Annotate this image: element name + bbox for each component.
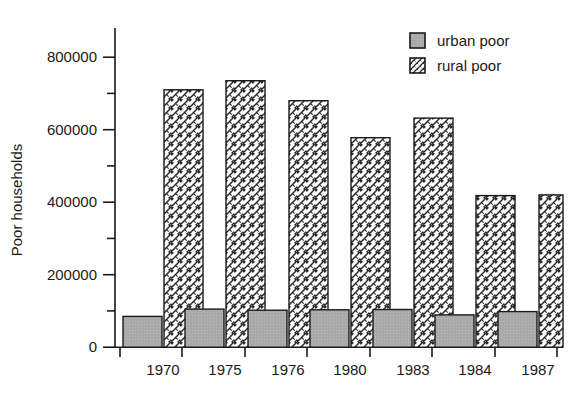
legend-label-rural-poor: rural poor (437, 57, 501, 74)
x-tick-label-1987: 1987 (521, 361, 554, 378)
y-tick-label-400000: 400000 (47, 193, 97, 210)
y-tick-label-0: 0 (89, 338, 97, 355)
bar-urban-1984 (435, 315, 474, 347)
bar-urban-1980 (310, 310, 349, 347)
y-axis-title: Poor households (8, 144, 25, 257)
legend-swatch-rural-poor (410, 58, 425, 73)
bar-urban-1983 (373, 310, 412, 348)
y-tick-label-600000: 600000 (47, 121, 97, 138)
x-tick-label-1984: 1984 (458, 361, 491, 378)
bar-rural-1975 (226, 81, 265, 348)
legend-swatch-urban-poor (410, 33, 425, 48)
x-tick-label-1970: 1970 (146, 361, 179, 378)
chart-canvas: Poor households 0 200000 400000 600000 8… (0, 0, 576, 393)
legend-item-urban-poor[interactable]: urban poor (410, 32, 510, 49)
bar-rural-1987 (539, 195, 563, 347)
bar-urban-1975 (185, 309, 224, 347)
bar-rural-1983 (414, 118, 453, 347)
legend-item-rural-poor[interactable]: rural poor (410, 57, 501, 74)
x-tick-label-1976: 1976 (271, 361, 304, 378)
y-tick-label-800000: 800000 (47, 48, 97, 65)
bar-urban-1976 (248, 310, 287, 347)
bar-urban-1970 (123, 316, 162, 347)
x-tick-label-1983: 1983 (396, 361, 429, 378)
legend-label-urban-poor: urban poor (437, 32, 510, 49)
y-tick-label-200000: 200000 (47, 266, 97, 283)
bar-urban-1987 (498, 312, 537, 348)
x-tick-label-1975: 1975 (208, 361, 241, 378)
bar-chart: Poor households 0 200000 400000 600000 8… (0, 0, 576, 393)
x-tick-label-1980: 1980 (333, 361, 366, 378)
